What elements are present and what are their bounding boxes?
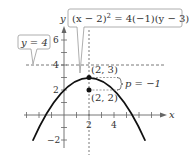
vertex-point <box>87 75 92 80</box>
x-axis-arrow <box>160 113 167 118</box>
y-axis-label: y <box>59 13 66 24</box>
p-brace <box>117 78 123 91</box>
parabola-chart: 2 4 6 4 2 −2 x y p = −1 (2, 3) (2, 2) (x… <box>0 0 195 155</box>
directrix-label: y = 4 <box>20 37 48 48</box>
x-axis-label: x <box>169 109 175 120</box>
equation-text: (x − 2)2 = 4(−1)(y − 3) <box>72 12 189 24</box>
y-tick-label-2: 2 <box>53 85 59 95</box>
x-tick-label-4: 4 <box>111 120 117 130</box>
vertex-label: (2, 3) <box>91 64 118 75</box>
y-tick-label-6: 6 <box>53 35 59 45</box>
x-tick-label-2: 2 <box>86 120 92 130</box>
y-tick-label-neg2: −2 <box>47 135 60 145</box>
focus-label: (2, 2) <box>91 92 118 103</box>
y-axis-arrow <box>62 26 67 33</box>
y-tick-label-4: 4 <box>53 60 59 70</box>
p-label: p = −1 <box>125 78 161 89</box>
